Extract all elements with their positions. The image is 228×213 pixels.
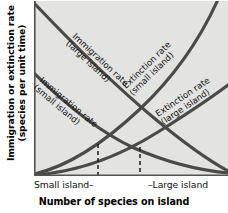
annotation-large-island: –Large island <box>148 179 208 190</box>
y-axis-label-line2: (species per unit time) <box>17 25 28 142</box>
annotation-small-island: Small island– <box>34 179 94 190</box>
figure-island-biogeography: Immigration or extinction rate (species … <box>0 0 228 213</box>
annotation-small-island-dash: – <box>89 179 94 190</box>
annotation-small-island-text: Small island <box>34 179 89 190</box>
x-axis-label: Number of species on island <box>0 196 228 207</box>
y-axis-label: Immigration or extinction rate (species … <box>1 3 33 163</box>
annotation-large-island-text: Large island <box>153 179 208 190</box>
plot-svg: Immigration rate (large island) Immigrat… <box>34 1 228 176</box>
plot-area: Immigration rate (large island) Immigrat… <box>34 1 228 176</box>
